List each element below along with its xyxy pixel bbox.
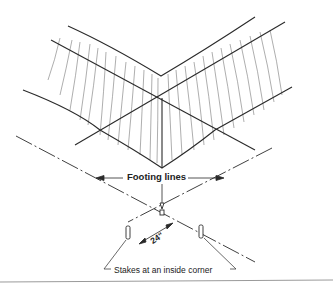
- footing-lines: [16, 136, 272, 262]
- trench-hatching: [48, 30, 282, 163]
- footing-lines-label: Footing lines: [125, 171, 188, 182]
- stakes-label: Stakes at an inside corner: [112, 265, 214, 275]
- plumb-bob-icon: [160, 203, 164, 215]
- inside-corner-diagram: [0, 0, 333, 289]
- caption-rule: [0, 280, 333, 282]
